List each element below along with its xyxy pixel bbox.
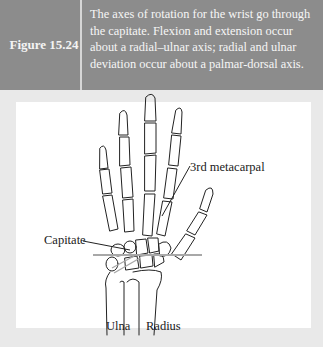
label-3rd-metacarpal: 3rd metacarpal	[190, 160, 265, 175]
little-finger-distal	[100, 146, 108, 169]
label-radius: Radius	[146, 319, 181, 334]
figure-frame: Figure 15.24 The axes of rotation for th…	[0, 0, 323, 347]
hand-skeleton-illustration	[0, 0, 323, 347]
label-ulna: Ulna	[106, 319, 130, 334]
label-capitate: Capitate	[44, 233, 86, 248]
capitate-bone	[136, 239, 148, 255]
